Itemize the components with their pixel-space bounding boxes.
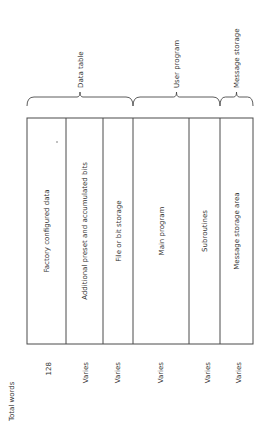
- word-count: Varies: [204, 362, 212, 384]
- group-braces: [27, 92, 253, 106]
- word-count-labels: 128VariesVariesVariesVariesVaries: [45, 362, 243, 384]
- segment-label: Message storage area: [233, 192, 241, 269]
- segment-label: Additional preset and accumulated bits: [81, 162, 89, 300]
- group-label: Message storage: [233, 29, 241, 89]
- segment-label: Subroutines: [201, 210, 209, 252]
- segment-dividers: [66, 118, 220, 344]
- word-count: Varies: [82, 362, 90, 384]
- group-label: User program: [173, 40, 181, 88]
- word-count: Varies: [157, 362, 165, 384]
- segment-label: Main program: [158, 206, 166, 255]
- group-labels: Data tableUser programMessage storage: [77, 29, 242, 89]
- word-count: Varies: [114, 362, 122, 384]
- memory-map-box: [27, 118, 253, 344]
- group-brace: [220, 92, 253, 106]
- dot-mark: [56, 141, 57, 142]
- word-count: Varies: [235, 362, 243, 384]
- group-brace: [133, 92, 220, 106]
- segment-label: Factory configured data: [43, 189, 51, 272]
- group-label: Data table: [77, 51, 85, 88]
- memory-map-diagram: Factory configured dataAdditional preset…: [0, 0, 260, 422]
- segment-label: File or bit storage: [115, 200, 123, 261]
- group-brace: [27, 92, 133, 106]
- segment-labels: Factory configured dataAdditional preset…: [43, 162, 241, 300]
- total-words-header: Total words: [8, 381, 16, 422]
- word-count: 128: [45, 362, 53, 375]
